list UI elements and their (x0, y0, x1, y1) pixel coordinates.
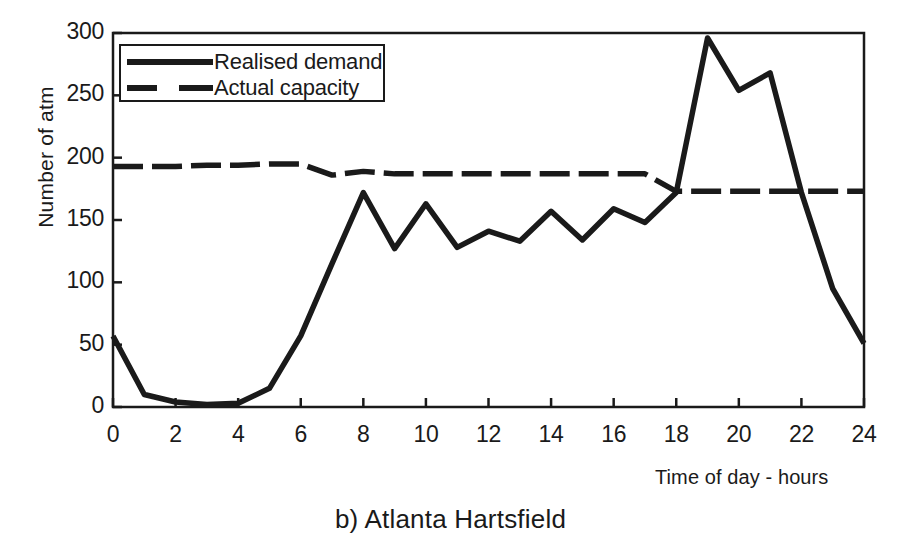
legend-label: Realised demand (214, 49, 382, 75)
x-tick-label: 20 (719, 421, 759, 448)
legend-swatch-dashed-line-icon (127, 74, 213, 101)
x-tick-label: 4 (218, 421, 258, 448)
x-tick-label: 10 (406, 421, 446, 448)
chart-figure: Number of atm 050100150200250300 0246810… (0, 0, 901, 555)
x-tick-label: 18 (656, 421, 696, 448)
y-tick-label: 200 (34, 143, 104, 170)
x-tick-label: 22 (781, 421, 821, 448)
legend-item-actual-capacity: Actual capacity (121, 74, 383, 101)
x-tick-label: 24 (844, 421, 884, 448)
series-line-actual-capacity (113, 164, 864, 191)
x-tick-label: 16 (594, 421, 634, 448)
legend-item-realised-demand: Realised demand (121, 48, 383, 75)
legend-swatch-solid-line-icon (127, 48, 213, 75)
y-tick-label: 50 (34, 330, 104, 357)
x-tick-label: 14 (531, 421, 571, 448)
y-tick-label: 250 (34, 80, 104, 107)
y-tick-label: 150 (34, 205, 104, 232)
x-tick-label: 6 (281, 421, 321, 448)
x-tick-label: 12 (469, 421, 509, 448)
x-tick-label: 8 (343, 421, 383, 448)
y-tick-label: 100 (34, 267, 104, 294)
y-tick-label: 0 (34, 392, 104, 419)
legend-label: Actual capacity (214, 75, 359, 101)
figure-caption: b) Atlanta Hartsfield (0, 504, 901, 535)
y-tick-label: 300 (34, 18, 104, 45)
x-tick-label: 2 (156, 421, 196, 448)
x-tick-label: 0 (93, 421, 133, 448)
chart-legend: Realised demand Actual capacity (119, 44, 385, 102)
x-axis-title: Time of day - hours (655, 466, 828, 489)
